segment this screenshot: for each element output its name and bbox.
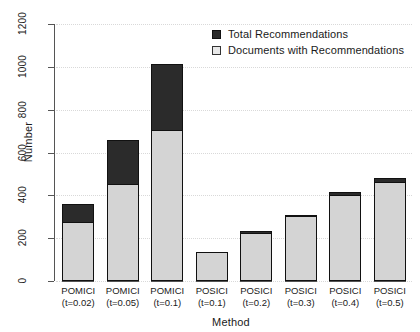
- bar-documents-with-recommendations: [285, 216, 317, 281]
- x-tick-label-line2: (t=0.02): [56, 297, 101, 309]
- bar-documents-with-recommendations: [107, 184, 139, 281]
- x-tick-label-line1: POMICI: [61, 285, 95, 296]
- x-axis-tick: [62, 281, 94, 282]
- x-axis-tick-label: POSICI(t=0.1): [190, 285, 235, 309]
- y-axis-tick: [48, 67, 54, 68]
- x-axis-tick-label: POSICI(t=0.4): [323, 285, 368, 309]
- y-axis-tick-label: 600: [17, 130, 28, 174]
- x-tick-label-line2: (t=0.4): [323, 297, 368, 309]
- y-axis-tick: [48, 110, 54, 111]
- bar-documents-with-recommendations: [151, 130, 183, 281]
- bar-group: [62, 24, 94, 281]
- x-axis-tick: [374, 281, 406, 282]
- bar-documents-with-recommendations: [240, 233, 272, 281]
- y-axis-tick-label: 800: [17, 87, 28, 131]
- y-axis-tick: [48, 238, 54, 239]
- x-axis-tick: [107, 281, 139, 282]
- x-axis-tick-label: POSICI(t=0.2): [234, 285, 279, 309]
- bar-group: [107, 24, 139, 281]
- x-tick-label-line2: (t=0.1): [190, 297, 235, 309]
- x-tick-label-line1: POMICI: [150, 285, 184, 296]
- x-axis-tick: [196, 281, 228, 282]
- x-tick-label-line1: POSICI: [240, 285, 272, 296]
- x-axis-tick: [285, 281, 317, 282]
- x-axis-tick-label: POMICI(t=0.1): [145, 285, 190, 309]
- bar-group: [240, 24, 272, 281]
- legend-item: Total Recommendations: [212, 26, 404, 42]
- x-axis-tick-label: POSICI(t=0.3): [279, 285, 324, 309]
- x-axis-title: Method: [50, 316, 412, 328]
- y-axis-tick-label: 200: [17, 216, 28, 260]
- bar-group: [196, 24, 228, 281]
- x-tick-label-line1: POSICI: [196, 285, 228, 296]
- y-axis-tick: [48, 153, 54, 154]
- x-axis-tick-label: POSICI(t=0.5): [368, 285, 413, 309]
- x-tick-label-line2: (t=0.2): [234, 297, 279, 309]
- x-tick-label-line1: POSICI: [285, 285, 317, 296]
- plot-area: [56, 24, 412, 281]
- x-axis-tick: [329, 281, 361, 282]
- x-tick-label-line2: (t=0.5): [368, 297, 413, 309]
- bar-documents-with-recommendations: [374, 182, 406, 281]
- bar-group: [285, 24, 317, 281]
- x-tick-label-line1: POSICI: [329, 285, 361, 296]
- bar-documents-with-recommendations: [62, 222, 94, 281]
- bar-documents-with-recommendations: [196, 252, 228, 281]
- x-axis-tick: [240, 281, 272, 282]
- y-axis-line: [54, 24, 55, 281]
- bar-group: [374, 24, 406, 281]
- x-tick-label-line1: POSICI: [374, 285, 406, 296]
- y-axis-tick: [48, 24, 54, 25]
- legend-swatch-filled-icon: [212, 30, 221, 39]
- legend-item: Documents with Recommendations: [212, 42, 404, 58]
- legend-label: Documents with Recommendations: [228, 44, 404, 56]
- x-axis-tick: [151, 281, 183, 282]
- y-axis-tick: [48, 195, 54, 196]
- y-axis-tick-label: 0: [17, 259, 28, 303]
- legend: Total RecommendationsDocuments with Reco…: [212, 26, 404, 58]
- y-axis-tick-label: 1000: [17, 44, 28, 88]
- bar-group: [151, 24, 183, 281]
- legend-label: Total Recommendations: [228, 28, 348, 40]
- x-tick-label-line1: POMICI: [106, 285, 140, 296]
- bar-chart-figure: Number 020040060080010001200 POMICI(t=0.…: [0, 0, 420, 332]
- legend-swatch-open-icon: [212, 46, 221, 55]
- bar-documents-with-recommendations: [329, 195, 361, 281]
- y-axis-tick-label: 400: [17, 173, 28, 217]
- bar-group: [329, 24, 361, 281]
- x-tick-label-line2: (t=0.1): [145, 297, 190, 309]
- x-tick-label-line2: (t=0.3): [279, 297, 324, 309]
- y-axis-tick-label: 1200: [17, 2, 28, 46]
- x-axis-tick-label: POMICI(t=0.02): [56, 285, 101, 309]
- x-tick-label-line2: (t=0.05): [101, 297, 146, 309]
- y-axis-tick: [48, 281, 54, 282]
- x-axis-tick-label: POMICI(t=0.05): [101, 285, 146, 309]
